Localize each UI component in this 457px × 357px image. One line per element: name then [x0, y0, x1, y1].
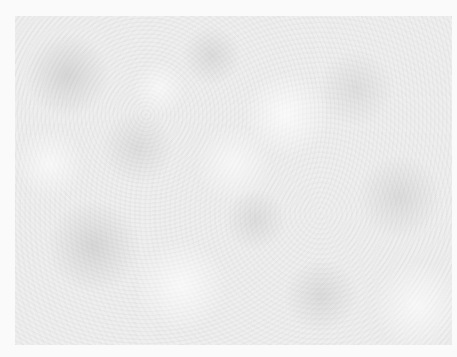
noise-texture-panel [15, 16, 452, 345]
image-canvas [0, 0, 457, 357]
